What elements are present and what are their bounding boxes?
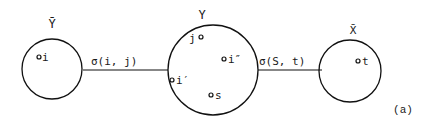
point-marker-icon: [222, 57, 226, 61]
point-marker-icon: [209, 93, 213, 97]
node-ybar-circle: [22, 39, 82, 99]
point-label-t: t: [362, 55, 369, 68]
edge-label-sigma-st: σ(S, t): [259, 55, 305, 68]
point-marker-icon: [37, 55, 41, 59]
edge-label-sigma-ij: σ(i, j): [91, 55, 137, 68]
point-label-j: j: [189, 32, 196, 45]
point-marker-icon: [199, 35, 203, 39]
node-y-label: Y: [198, 8, 206, 22]
node-ybar: Ȳ i: [22, 17, 82, 99]
point-marker-icon: [356, 59, 360, 63]
point-marker-icon: [170, 78, 174, 82]
point-label-s: s: [215, 89, 222, 102]
figure-caption: (a): [393, 104, 413, 116]
point-label-i: i: [42, 51, 49, 64]
node-xbar-circle: [319, 40, 381, 102]
diagram-canvas: Ȳ i Y j i″ i′ s X̄ t σ(i, j) σ(S, t) (a…: [0, 0, 441, 127]
point-label-i-prime: i′: [176, 74, 189, 87]
node-xbar-label: X̄: [350, 24, 357, 37]
node-xbar: X̄ t: [319, 24, 381, 102]
node-y: Y j i″ i′ s: [168, 8, 258, 115]
node-y-circle: [168, 25, 258, 115]
node-ybar-label: Ȳ: [48, 17, 56, 31]
point-label-i-double-prime: i″: [228, 53, 241, 66]
